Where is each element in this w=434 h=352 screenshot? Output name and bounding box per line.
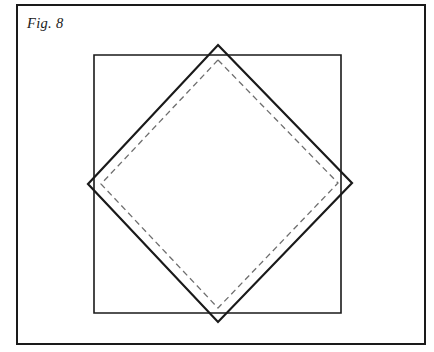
- figure-caption: Fig. 8: [27, 16, 63, 31]
- figure-drawing-canvas: [0, 0, 434, 352]
- figure-panel: Fig. 8: [0, 0, 434, 352]
- canvas-background: [0, 0, 434, 352]
